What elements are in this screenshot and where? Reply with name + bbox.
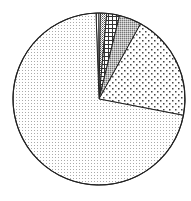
pie-chart	[0, 0, 191, 201]
pie-slices	[13, 13, 185, 185]
